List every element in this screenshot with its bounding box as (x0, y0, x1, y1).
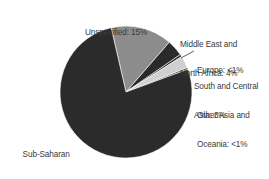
label-sub-saharan-africa: Sub-Saharan Africa: 77% (21, 131, 70, 179)
label-other-asia-oceania: Other Asia and Oceania: <1% (197, 92, 250, 159)
label-sca-line1: South and Central (194, 82, 258, 92)
label-unspecified-line1: Unspecified: 15% (85, 28, 147, 38)
label-oao-line1: Other Asia and (197, 111, 250, 121)
label-unspecified: Unspecified: 15% (85, 9, 147, 47)
label-ssa-line1: Sub-Saharan (21, 150, 70, 160)
label-oao-line2: Oceania: <1% (197, 140, 250, 150)
